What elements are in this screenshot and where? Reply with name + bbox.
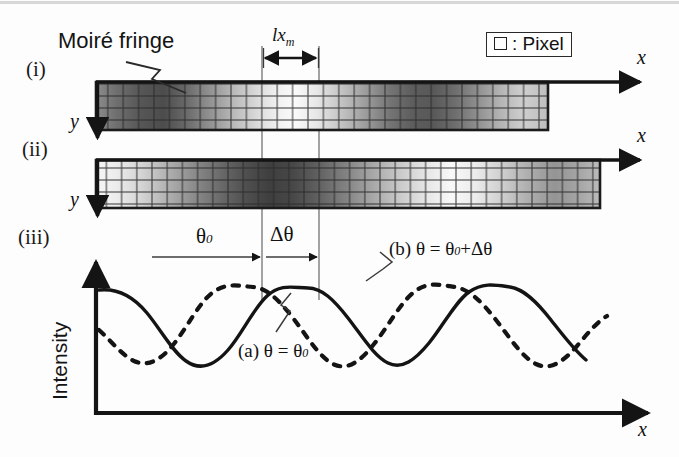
curve-a-label: (a) θ = θ0 xyxy=(238,340,308,362)
delta-theta-label: Δθ xyxy=(270,222,294,247)
panel-ii-pixel-strip xyxy=(96,160,640,216)
panel-iii-x-label: x xyxy=(638,418,647,441)
pitch-label-main: lx xyxy=(272,24,286,45)
curve-b-label-pre: (b) θ = θ xyxy=(389,238,454,259)
pitch-label: lxm xyxy=(272,24,294,50)
figure-canvas xyxy=(0,0,679,457)
curve-b-solid xyxy=(99,285,586,366)
panel-iii-y-label: Intensity xyxy=(48,322,72,400)
panel-ii-x-label: x xyxy=(637,124,646,147)
panel-ii-y-label: y xyxy=(70,188,79,211)
panel-i-y-label: y xyxy=(70,110,79,133)
panel-label-i: (i) xyxy=(26,57,46,82)
pitch-label-sub: m xyxy=(286,35,295,49)
theta0-symbol: θ xyxy=(196,224,206,248)
theta0-subscript: 0 xyxy=(206,231,213,246)
pixel-legend: : Pixel xyxy=(486,32,572,57)
panel-label-iii: (iii) xyxy=(18,225,50,250)
pixel-legend-text: : Pixel xyxy=(512,34,564,54)
curve-b-label-post: +Δθ xyxy=(460,238,492,259)
moire-fringe-label: Moiré fringe xyxy=(58,28,174,54)
curve-a-label-text: (a) θ = θ xyxy=(238,340,302,361)
panel-label-ii: (ii) xyxy=(22,137,48,162)
curve-a-label-sub: 0 xyxy=(302,346,308,360)
moire-fringe-figure: Moiré fringe lxm : Pixel (i) (ii) (iii) … xyxy=(0,0,679,457)
strip-i-pixel-grid xyxy=(96,82,548,130)
theta0-label: θ0 xyxy=(196,224,213,249)
panel-i-x-label: x xyxy=(637,46,646,69)
strip-ii-pixel-grid xyxy=(96,160,600,208)
pixel-square-icon xyxy=(494,37,507,50)
curve-b-label: (b) θ = θ0+Δθ xyxy=(389,238,492,260)
